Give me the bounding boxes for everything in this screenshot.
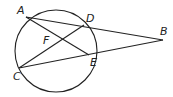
label-F: F — [43, 34, 50, 47]
label-C: C — [13, 70, 21, 83]
label-B: B — [160, 25, 168, 38]
label-A: A — [16, 4, 25, 17]
label-D: D — [86, 12, 94, 25]
label-E: E — [90, 56, 97, 69]
geometry-diagram: A D B F E C — [0, 0, 173, 97]
